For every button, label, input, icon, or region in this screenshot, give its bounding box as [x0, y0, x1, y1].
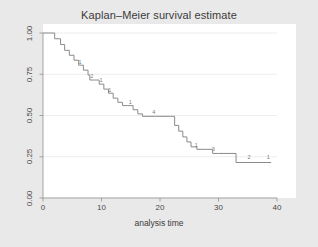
censor-count-label: 1 [100, 77, 103, 83]
x-axis-title: analysis time [0, 218, 318, 228]
censor-count-label: 1 [78, 59, 81, 65]
censor-count-label: 1 [195, 142, 198, 148]
x-tick-label: 30 [207, 203, 231, 212]
y-tick-label-text: 0.25 [25, 149, 34, 165]
censor-count-label: 3 [212, 146, 215, 152]
censor-count-label: 1 [108, 87, 111, 93]
x-tick-label: 40 [265, 203, 289, 212]
y-tick-label: 0.25 [21, 148, 39, 166]
censor-count-label: 1 [267, 154, 270, 160]
censor-count-label: 1 [129, 99, 132, 105]
censor-count-label: 4 [152, 109, 155, 115]
x-tick-label: 0 [31, 203, 55, 212]
axis-ticks [40, 33, 278, 202]
y-tick-label: 0.75 [21, 65, 39, 83]
x-tick-label: 10 [90, 203, 114, 212]
y-tick-label-text: 0.75 [25, 66, 34, 82]
y-tick-label-text: 0.50 [25, 108, 34, 124]
censor-count-label: 2 [248, 154, 251, 160]
x-tick-label: 20 [148, 203, 172, 212]
kaplan-meier-figure: Kaplan–Meier survival estimate 0.000.250… [0, 0, 318, 247]
y-tick-label-text: 1.00 [25, 25, 34, 41]
gridlines [43, 33, 277, 198]
y-tick-label: 1.00 [21, 24, 39, 42]
censor-count-label: 2 [90, 73, 93, 79]
survival-curve [43, 33, 271, 163]
y-tick-label: 0.50 [21, 107, 39, 125]
